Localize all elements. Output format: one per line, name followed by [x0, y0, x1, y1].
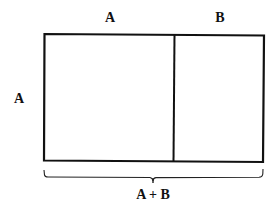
label-top-a: A	[105, 11, 115, 25]
label-bottom-sum: A + B	[136, 188, 170, 202]
divider-line	[174, 35, 175, 162]
golden-ratio-diagram: A B A A + B	[0, 0, 275, 211]
label-left-a: A	[14, 92, 24, 106]
label-top-b: B	[215, 11, 224, 25]
outer-rectangle	[44, 34, 264, 162]
diagram-canvas	[0, 0, 275, 211]
